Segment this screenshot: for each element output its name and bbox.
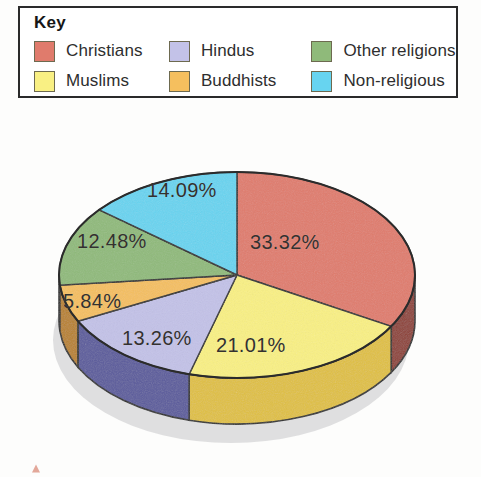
legend-swatch-icon-buddhists xyxy=(169,71,190,92)
page-marker-icon xyxy=(31,464,41,473)
legend-swatch-icon-christians xyxy=(34,41,55,62)
legend-item-buddhists[interactable]: Buddhists xyxy=(169,71,312,92)
legend-swatch-icon-muslims xyxy=(34,71,55,92)
legend-label-other-religions: Other religions xyxy=(343,41,455,61)
slice-label-buddhists: 5.84% xyxy=(63,290,121,313)
legend-item-non-religious[interactable]: Non-religious xyxy=(311,71,456,92)
legend-title: Key xyxy=(34,13,456,33)
legend-row-2: Muslims Buddhists Non-religious xyxy=(34,66,456,96)
legend-swatch-icon-other-religions xyxy=(311,41,332,62)
pie-chart: 33.32% 21.01% 13.26% 5.84% 12.48% 14.09% xyxy=(0,108,481,477)
legend-item-muslims[interactable]: Muslims xyxy=(34,71,169,92)
legend-label-buddhists: Buddhists xyxy=(201,71,277,91)
legend-swatch-icon-non-religious xyxy=(311,71,332,92)
legend-label-hindus: Hindus xyxy=(201,41,255,61)
legend-label-muslims: Muslims xyxy=(66,71,129,91)
slice-label-other-religions: 12.48% xyxy=(77,230,147,253)
legend-label-non-religious: Non-religious xyxy=(343,71,444,91)
slice-label-non-religious: 14.09% xyxy=(147,179,217,202)
legend-label-christians: Christians xyxy=(66,41,143,61)
legend-item-christians[interactable]: Christians xyxy=(34,41,169,62)
legend-row-1: Christians Hindus Other religions xyxy=(34,36,456,66)
legend-box: Key Christians Hindus Other religions Mu… xyxy=(18,6,458,98)
slice-label-christians: 33.32% xyxy=(250,231,320,254)
slice-label-muslims: 21.01% xyxy=(216,334,286,357)
slice-label-hindus: 13.26% xyxy=(122,327,192,350)
legend-item-hindus[interactable]: Hindus xyxy=(169,41,312,62)
legend-item-other-religions[interactable]: Other religions xyxy=(311,41,456,62)
legend-swatch-icon-hindus xyxy=(169,41,190,62)
